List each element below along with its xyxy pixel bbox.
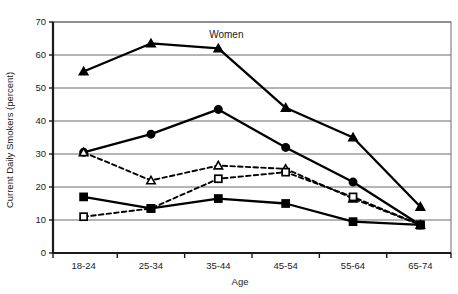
x-axis-tick-label: 65-74 bbox=[408, 260, 432, 271]
data-point-marker bbox=[349, 178, 356, 185]
data-point-marker bbox=[147, 131, 154, 138]
data-point-marker bbox=[80, 193, 87, 200]
data-point-marker bbox=[147, 205, 154, 212]
data-point-marker bbox=[215, 106, 222, 113]
data-point-marker bbox=[80, 213, 87, 220]
x-axis-tick-label: 55-64 bbox=[341, 260, 365, 271]
y-axis-tick-label: 30 bbox=[35, 148, 46, 159]
y-axis-tick-label: 40 bbox=[35, 115, 46, 126]
y-axis-tick-label: 0 bbox=[41, 247, 46, 258]
chart-background bbox=[0, 0, 458, 294]
data-point-marker bbox=[350, 218, 357, 225]
data-point-marker bbox=[282, 144, 289, 151]
chart-container: 010203040506070 18-2425-3435-4445-5455-6… bbox=[0, 0, 458, 294]
x-axis-tick-label: 45-54 bbox=[274, 260, 298, 271]
data-point-marker bbox=[215, 195, 222, 202]
data-point-marker bbox=[417, 221, 424, 228]
line-chart: 010203040506070 18-2425-3435-4445-5455-6… bbox=[0, 0, 458, 294]
x-axis-tick-label: 18-24 bbox=[71, 260, 95, 271]
x-axis-tick-label: 25-34 bbox=[139, 260, 163, 271]
y-axis-tick-label: 20 bbox=[35, 181, 46, 192]
y-axis-title: Current Daily Smokers (percent) bbox=[4, 72, 15, 208]
x-axis-title: Age bbox=[232, 276, 249, 287]
data-point-marker bbox=[215, 175, 222, 182]
annotation-group: Women bbox=[209, 29, 243, 40]
data-point-marker bbox=[282, 169, 289, 176]
data-point-marker bbox=[282, 200, 289, 207]
series-annotation-women: Women bbox=[209, 29, 243, 40]
y-axis-tick-label: 10 bbox=[35, 214, 46, 225]
y-axis-tick-label: 50 bbox=[35, 82, 46, 93]
y-axis-tick-label: 70 bbox=[35, 16, 46, 27]
data-point-marker bbox=[350, 193, 357, 200]
x-axis-tick-label: 35-44 bbox=[206, 260, 230, 271]
y-axis-tick-label: 60 bbox=[35, 49, 46, 60]
